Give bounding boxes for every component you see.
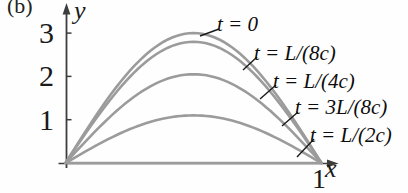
y-axis-arrowhead [63, 3, 71, 15]
curve-label-t-L-4c: t = L/(4c) [273, 70, 355, 93]
y-tick-label-2: 2 [16, 60, 54, 92]
curve-label-t-L-2c: t = L/(2c) [310, 124, 392, 147]
figure-panel-label: (b) [7, 0, 33, 18]
y-tick-label-3: 3 [16, 17, 54, 49]
curve-label-t-0: t = 0 [217, 13, 258, 36]
x-tick-label-1: 1 [306, 164, 332, 193]
y-axis-label: y [74, 0, 86, 24]
curve-label-t-L-8c: t = L/(8c) [254, 42, 336, 65]
figure-b-standing-wave-snapshots: (b) y x 3 2 1 1 t = 0 t = L/(8c) t = L/(… [0, 0, 408, 193]
curve-label-t-3L-8c: t = 3L/(8c) [295, 96, 387, 119]
y-tick-label-1: 1 [16, 104, 54, 136]
